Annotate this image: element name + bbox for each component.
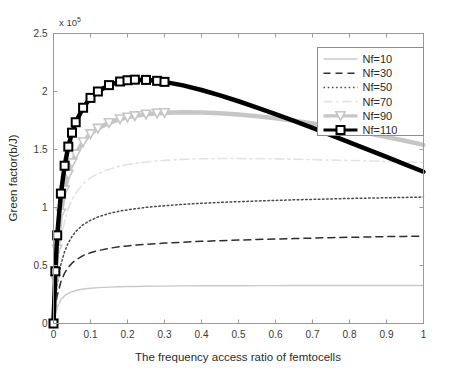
- legend-label-nf-50: Nf=50: [363, 81, 393, 93]
- legend-label-nf-10: Nf=10: [363, 53, 393, 65]
- marker-square: [105, 81, 113, 89]
- x-tick-label: 0.6: [269, 329, 283, 340]
- x-tick-label: 0.5: [232, 329, 246, 340]
- y-tick-label: 0.5: [34, 260, 48, 271]
- legend-label-nf-90: Nf=90: [363, 110, 393, 122]
- x-tick-label: 0.9: [380, 329, 394, 340]
- legend-label-nf-110: Nf=110: [363, 124, 398, 136]
- green-factor-line-chart: 00.10.20.30.40.50.60.70.80.91 00.511.522…: [0, 0, 451, 381]
- y-axis-label: Green factor(b/J): [7, 134, 19, 221]
- x-tick-label: 0.8: [343, 329, 357, 340]
- y-tick-label: 0: [42, 318, 48, 329]
- y-tick-label: 2.5: [34, 28, 48, 39]
- marker-square: [131, 76, 139, 84]
- chart-legend[interactable]: Nf=10Nf=30Nf=50Nf=70Nf=90Nf=110: [318, 48, 424, 137]
- marker-square: [57, 190, 65, 198]
- x-tick-label: 0.7: [306, 329, 320, 340]
- y-axis-exponent-power: 5: [77, 16, 81, 23]
- marker-square: [64, 143, 72, 151]
- legend-marker-square: [337, 126, 345, 134]
- x-tick-label: 0: [51, 329, 57, 340]
- marker-square: [61, 162, 69, 170]
- marker-square: [72, 118, 80, 126]
- x-tick-label: 0.4: [195, 329, 209, 340]
- y-tick-label: 2: [42, 86, 48, 97]
- marker-square: [68, 129, 76, 137]
- y-tick-label: 1.5: [34, 144, 48, 155]
- x-tick-label: 0.3: [158, 329, 172, 340]
- x-tick-label: 1: [421, 329, 427, 340]
- marker-square: [94, 88, 102, 96]
- x-tick-label: 0.2: [121, 329, 135, 340]
- x-tick-label: 0.1: [84, 329, 98, 340]
- marker-square: [51, 267, 59, 275]
- x-axis-label: The frequency access ratio of femtocells: [135, 351, 341, 363]
- y-tick-label: 1: [42, 202, 48, 213]
- marker-square: [161, 78, 169, 86]
- marker-square: [142, 76, 150, 84]
- marker-square: [53, 231, 61, 239]
- y-axis-exponent-base: x 10: [59, 17, 77, 28]
- marker-square: [79, 104, 87, 112]
- legend-label-nf-70: Nf=70: [363, 96, 393, 108]
- legend-label-nf-30: Nf=30: [363, 67, 393, 79]
- chart-figure: 00.10.20.30.40.50.60.70.80.91 00.511.522…: [0, 0, 451, 381]
